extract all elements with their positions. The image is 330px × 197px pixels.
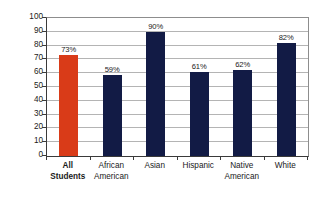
- bar-group[interactable]: 59%: [91, 18, 135, 156]
- graduation-rate-bar-chart: Graduation Rate (percent) 01020304050607…: [0, 0, 330, 197]
- y-tick-label-60: 60: [21, 68, 43, 76]
- bar[interactable]: [59, 55, 78, 156]
- x-tick-mark-5: [264, 156, 265, 160]
- x-tick-mark-6: [307, 156, 308, 160]
- y-tick-label-0: 0: [21, 151, 43, 159]
- bar[interactable]: [233, 70, 252, 156]
- plot-area: 73%59%90%61%62%82%: [46, 17, 309, 157]
- x-axis-label-african-american: AfricanAmerican: [90, 161, 134, 182]
- bar[interactable]: [190, 72, 209, 156]
- y-tick-label-70: 70: [21, 54, 43, 62]
- y-tick-label-30: 30: [21, 110, 43, 118]
- x-tick-mark-2: [133, 156, 134, 160]
- x-tick-mark-3: [177, 156, 178, 160]
- y-tick-label-100: 100: [21, 13, 43, 21]
- bar-value-label: 62%: [235, 60, 250, 69]
- bar-value-label: 61%: [192, 62, 207, 71]
- x-axis-label-hispanic: Hispanic: [177, 161, 221, 172]
- x-tick-mark-4: [220, 156, 221, 160]
- bar-group[interactable]: 82%: [265, 18, 309, 156]
- bar-group[interactable]: 90%: [134, 18, 178, 156]
- y-tick-label-40: 40: [21, 96, 43, 104]
- bar-group[interactable]: 62%: [221, 18, 265, 156]
- x-tick-mark-0: [46, 156, 47, 160]
- bar-group[interactable]: 61%: [178, 18, 222, 156]
- bar[interactable]: [146, 32, 165, 156]
- y-tick-label-80: 80: [21, 41, 43, 49]
- bar-value-label: 82%: [279, 33, 294, 42]
- bar[interactable]: [277, 43, 296, 156]
- x-axis-label-all-students: AllStudents: [46, 161, 90, 182]
- bar-value-label: 73%: [61, 45, 76, 54]
- x-tick-mark-1: [90, 156, 91, 160]
- y-tick-label-20: 20: [21, 123, 43, 131]
- x-axis-label-asian: Asian: [133, 161, 177, 172]
- x-axis-label-native-american: NativeAmerican: [220, 161, 264, 182]
- y-tick-label-90: 90: [21, 27, 43, 35]
- y-tick-label-50: 50: [21, 82, 43, 90]
- bar-value-label: 90%: [148, 22, 163, 31]
- x-axis-label-white: White: [264, 161, 308, 172]
- bar-group[interactable]: 73%: [47, 18, 91, 156]
- y-tick-label-10: 10: [21, 137, 43, 145]
- bar-value-label: 59%: [105, 65, 120, 74]
- bar[interactable]: [103, 75, 122, 156]
